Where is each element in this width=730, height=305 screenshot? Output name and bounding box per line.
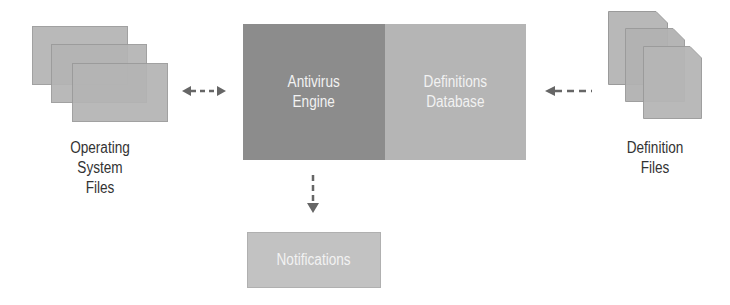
- os-files-label-line-3: Files: [49, 178, 151, 198]
- database-label-line-2: Database: [424, 92, 487, 112]
- left-dashed-arrow-icon: [544, 83, 594, 99]
- database-label-line-1: Definitions: [424, 72, 487, 92]
- os-file-sheet-3: [72, 63, 168, 122]
- definitions-database-box: Definitions Database: [385, 24, 526, 160]
- engine-label-line-1: Antivirus: [288, 72, 340, 92]
- os-files-label-line-1: Operating: [49, 138, 151, 158]
- antivirus-engine-box: Antivirus Engine: [243, 24, 385, 160]
- os-files-label: Operating System Files: [49, 138, 151, 198]
- notifications-box: Notifications: [247, 232, 381, 288]
- down-dashed-arrow-icon: [305, 175, 321, 215]
- definition-files-label: Definition Files: [604, 138, 706, 178]
- engine-label-line-2: Engine: [288, 92, 340, 112]
- definition-files-label-line-1: Definition: [604, 138, 706, 158]
- notifications-label: Notifications: [277, 250, 351, 270]
- bidirectional-dashed-arrow-icon: [180, 83, 228, 99]
- definition-file-sheet-3: [643, 46, 702, 119]
- definition-files-label-line-2: Files: [604, 158, 706, 178]
- os-files-label-line-2: System: [49, 158, 151, 178]
